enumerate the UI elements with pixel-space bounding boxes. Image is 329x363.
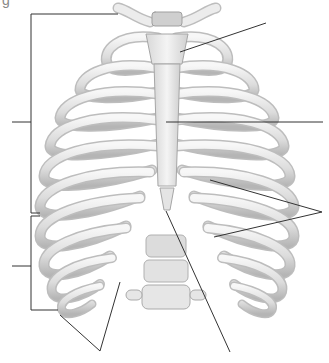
ribs-left bbox=[40, 37, 158, 314]
clavicles bbox=[118, 8, 216, 26]
rib-cage-diagram: g bbox=[0, 0, 329, 363]
rib-cage-illustration bbox=[0, 0, 329, 363]
